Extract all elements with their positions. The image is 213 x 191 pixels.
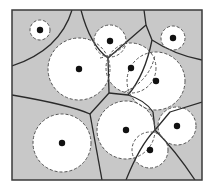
- site-I-dot: [174, 123, 180, 129]
- site-G-dot: [59, 140, 65, 146]
- power-diagram: [0, 0, 213, 191]
- site-H-dot: [123, 127, 129, 133]
- site-B-dot: [76, 66, 82, 72]
- site-J-dot: [147, 147, 153, 153]
- site-C-dot: [107, 38, 113, 44]
- site-D-dot: [170, 35, 176, 41]
- site-A-dot: [37, 27, 43, 33]
- site-F-dot: [153, 78, 159, 84]
- site-E-dot: [128, 65, 134, 71]
